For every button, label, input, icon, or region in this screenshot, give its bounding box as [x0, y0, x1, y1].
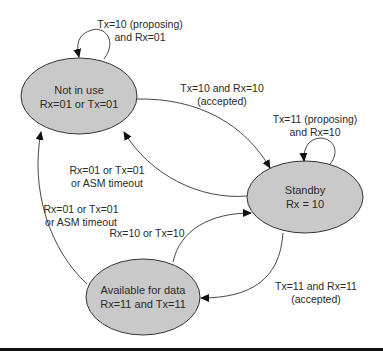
- state-condition: Rx=01 or Tx=01: [21, 97, 137, 111]
- bottom-divider: [0, 348, 383, 351]
- transition-label-standby-self: Tx=11 (proposing) and Rx=10: [265, 113, 365, 139]
- state-condition: Rx=11 and Tx=11: [86, 297, 200, 311]
- transition-label-available-to-not-in-use: Rx=01 or Tx=01 or ASM timeout: [36, 203, 126, 229]
- state-available-label: Available for data Rx=11 and Tx=11: [86, 283, 200, 311]
- transition-label-not-in-use-self: Tx=10 (proposing) and Rx=01: [90, 18, 190, 44]
- transition-label-standby-to-available: Tx=11 and Rx=11 (accepted): [266, 280, 366, 306]
- state-condition: Rx = 10: [247, 197, 363, 211]
- transition-label-standby-to-not-in-use: Rx=01 or Tx=01 or ASM timeout: [62, 164, 152, 190]
- edge-not-in-use-to-standby: [137, 99, 270, 168]
- transition-label-available-to-standby: Rx=10 or Tx=10: [102, 227, 192, 240]
- state-not-in-use-label: Not in use Rx=01 or Tx=01: [21, 83, 137, 111]
- edge-standby-self: [304, 138, 335, 164]
- transition-label-not-in-use-to-standby: Tx=10 and Rx=10 (accepted): [172, 82, 272, 108]
- state-name: Not in use: [21, 83, 137, 97]
- state-name: Available for data: [86, 283, 200, 297]
- state-standby-label: Standby Rx = 10: [247, 183, 363, 211]
- state-name: Standby: [247, 183, 363, 197]
